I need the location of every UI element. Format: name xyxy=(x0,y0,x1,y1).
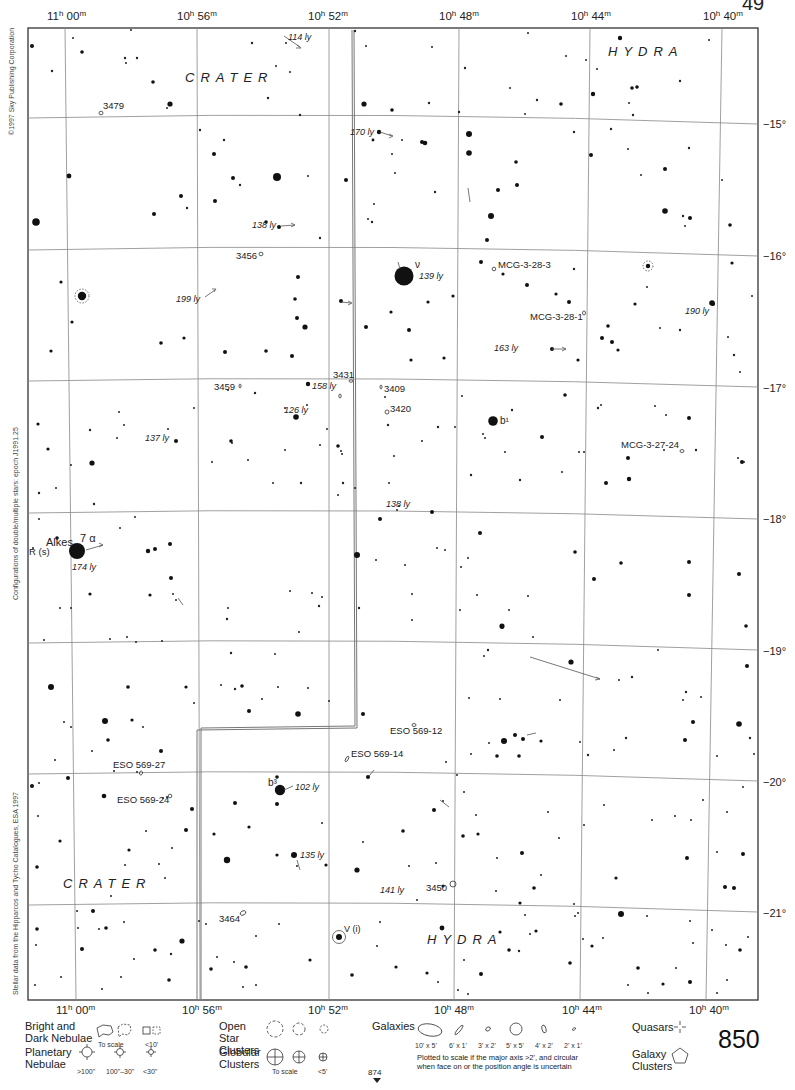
legend-galaxies-title: Galaxies xyxy=(372,1020,415,1032)
planetary-nebula-large-icon xyxy=(82,1047,92,1057)
dso-label: MCG-3-28-3 xyxy=(498,259,551,270)
galaxy-eso569-27[interactable] xyxy=(139,771,143,776)
dec-label: −19° xyxy=(763,645,786,657)
chart-frame xyxy=(28,28,758,1000)
dso-label: 3409 xyxy=(384,383,405,394)
distance-label: 170 ly xyxy=(350,127,375,137)
distance-label: 139 ly xyxy=(419,271,444,281)
dso-label: MCG-3-27-24 xyxy=(621,439,679,450)
star-b1[interactable] xyxy=(488,416,498,426)
faint-stars xyxy=(32,29,755,995)
distance-label: 138 ly xyxy=(252,220,277,230)
distance-label: 174 ly xyxy=(72,562,97,572)
variable-star-rings xyxy=(75,261,653,944)
dso-label: 3431 xyxy=(333,369,354,380)
ra-label: 11h 00m xyxy=(47,9,86,22)
legend-planetary-title: Planetary Nebulae xyxy=(25,1046,80,1070)
star-label-v-i: V (i) xyxy=(344,924,361,934)
star-nu[interactable] xyxy=(395,267,414,286)
dso-label: ESO 569-27 xyxy=(113,759,165,770)
galaxy-unlabeled[interactable] xyxy=(339,394,341,398)
galaxy-mcg-3-28-1[interactable] xyxy=(583,311,586,315)
constellation-label-crater: CRATER xyxy=(63,876,151,891)
distance-label: 126 ly xyxy=(284,405,309,415)
legend-quasars-title: Quasars xyxy=(632,1021,674,1033)
ra-label: 10h 40m xyxy=(689,1003,729,1016)
ra-labels-top: 11h 00m 10h 56m 10h 52m 10h 48m 10h 44m … xyxy=(47,9,743,22)
configurations-note: Configurations of double/multiple stars:… xyxy=(12,427,20,600)
constellation-labels: CRATER HYDRA CRATER HYDRA xyxy=(63,44,684,947)
constellation-label-hydra: HYDRA xyxy=(608,44,684,59)
legend-nebulae-to-scale: To scale xyxy=(98,1037,124,1051)
page-number: 850 xyxy=(718,1025,760,1054)
galaxy-ngc3456[interactable] xyxy=(259,252,263,256)
star-label-b3: b³ xyxy=(268,777,278,788)
legend-galaxy-clusters-title: Galaxy Clusters xyxy=(632,1048,672,1072)
small-dark-nebula-icon xyxy=(153,1027,160,1034)
open-cluster-large-icon xyxy=(267,1021,283,1037)
dso-label: MCG-3-28-1 xyxy=(530,311,583,322)
copyright-note: ©1997 Sky Publishing Corporation xyxy=(8,28,16,135)
constellation-label-hydra: HYDRA xyxy=(427,932,503,947)
legend-nebulae-small: <10' xyxy=(145,1037,158,1051)
galaxy-ngc3479[interactable] xyxy=(99,111,103,115)
dso-label: 3420 xyxy=(390,403,411,414)
dso-label: ESO 569-12 xyxy=(390,725,442,736)
dso-label: 3464 xyxy=(219,913,240,924)
data-source-note: Stellar data from the Hipparcos and Tych… xyxy=(12,792,20,995)
dec-label: −20° xyxy=(763,776,786,788)
legend-planetary-size: 100"–30" xyxy=(106,1064,134,1078)
galaxy-ngc3450[interactable] xyxy=(450,881,456,887)
galaxy-5x5-icon xyxy=(510,1023,522,1035)
star-variable[interactable] xyxy=(78,292,86,300)
ra-grid xyxy=(65,28,722,1000)
distance-label: 137 ly xyxy=(145,433,170,443)
galaxy-mcg-3-28-3[interactable] xyxy=(492,267,496,271)
constellation-label-crater: CRATER xyxy=(185,70,273,85)
ra-label: 10h 44m xyxy=(562,1003,602,1016)
dec-label: −15° xyxy=(763,118,786,130)
legend-galaxy-size: 6' x 1' xyxy=(449,1038,467,1052)
open-cluster-small-icon xyxy=(320,1025,328,1033)
galaxy-mcg-3-27-24[interactable] xyxy=(680,450,684,453)
legend-globular-to-scale: To scale xyxy=(272,1064,298,1078)
dec-label: −18° xyxy=(763,513,786,525)
bright-stars xyxy=(32,101,742,943)
galaxy-ngc3431[interactable] xyxy=(349,380,353,382)
galaxy-4x2-icon xyxy=(541,1025,547,1034)
galaxy-ngc3464[interactable] xyxy=(239,910,246,916)
ra-label: 10h 56m xyxy=(177,9,217,22)
legend-galaxy-size: 3' x 2' xyxy=(478,1038,496,1052)
dec-grid xyxy=(28,115,758,912)
next-page-link[interactable]: 874 xyxy=(368,1068,381,1077)
galaxy-ngc3409[interactable] xyxy=(380,385,382,389)
dso-label: 3459 xyxy=(214,381,235,392)
legend-globular-small: <5' xyxy=(318,1064,327,1078)
galaxy-6x1-icon xyxy=(454,1024,464,1035)
dark-nebula-icon xyxy=(118,1024,131,1037)
ra-label: 10h 52m xyxy=(308,9,348,22)
galaxy-ngc3459[interactable] xyxy=(239,384,241,388)
distance-label: 102 ly xyxy=(295,782,320,792)
distance-label: 158 ly xyxy=(312,381,337,391)
galaxy-ngc3420[interactable] xyxy=(385,410,389,414)
legend-globular-title: Globular Clusters xyxy=(219,1046,264,1070)
ra-label: 11h 00m xyxy=(56,1003,95,1016)
deep-sky-labels: 3479 3456 MCG-3-28-3 MCG-3-28-1 3459 343… xyxy=(103,100,679,924)
legend-galaxy-size: 2' x 1' xyxy=(564,1038,582,1052)
distance-labels: 114 ly 170 ly 138 ly 139 ly 199 ly 190 l… xyxy=(72,32,710,895)
ra-label: 10h 40m xyxy=(703,9,743,22)
ra-labels-bottom: 11h 00m 10h 56m 10h 52m 10h 48m 10h 44m … xyxy=(56,1003,729,1016)
star-label-7-alpha: 7 α xyxy=(80,532,96,544)
legend-planetary-size: >100" xyxy=(77,1064,95,1078)
galaxy-eso569-14[interactable] xyxy=(344,756,349,762)
legend-nebulae-title: Bright and Dark Nebulae xyxy=(25,1020,95,1044)
distance-label: 135 ly xyxy=(300,850,325,860)
ra-label: 10h 48m xyxy=(439,9,479,22)
ra-label: 10h 56m xyxy=(182,1003,222,1016)
dec-label: −21° xyxy=(763,907,786,919)
dso-label: 3479 xyxy=(103,100,124,111)
distance-label: 190 ly xyxy=(685,306,710,316)
distance-label: 114 ly xyxy=(288,32,312,42)
next-page-arrow-icon xyxy=(373,1078,381,1083)
